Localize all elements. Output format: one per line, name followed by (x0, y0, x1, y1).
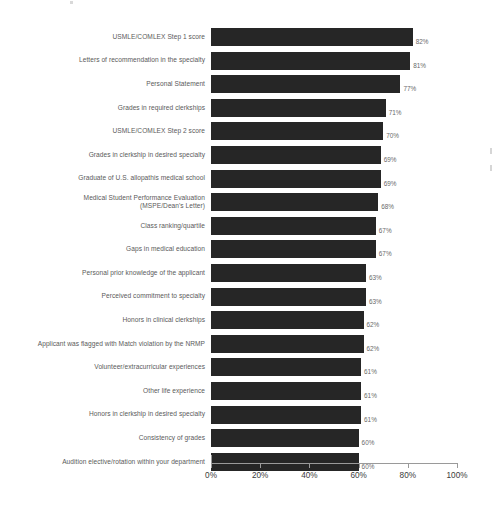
bar-value-label: 67% (379, 227, 392, 235)
bar-row: Consistency of grades60% (0, 429, 494, 453)
x-axis-tick-label: 100% (447, 471, 468, 481)
category-label: Class ranking/quartile (0, 222, 205, 230)
x-axis-tick-label: 80% (400, 471, 416, 481)
bar-row: Volunteer/extracurricular experiences61% (0, 358, 494, 382)
bar-value-label: 68% (381, 203, 394, 211)
category-label: Honors in clerkship in desired specialty (0, 410, 205, 418)
bar-row: Letters of recommendation in the special… (0, 52, 494, 76)
bar-value-label: 62% (367, 321, 380, 329)
bar (211, 193, 378, 211)
bar (211, 264, 366, 282)
bar (211, 28, 413, 46)
bar-value-label: 82% (416, 38, 429, 46)
bar-row: Gaps in medical education67% (0, 240, 494, 264)
bar (211, 288, 366, 306)
x-axis-tick (260, 463, 261, 468)
bar-value-label: 69% (384, 180, 397, 188)
bar (211, 429, 359, 447)
bar-row: USMLE/COMLEX Step 2 score70% (0, 122, 494, 146)
bar (211, 146, 381, 164)
bar-row: Grades in required clerkships71% (0, 99, 494, 123)
bar-value-label: 61% (364, 368, 377, 376)
bar-value-label: 60% (362, 439, 375, 447)
bar (211, 358, 361, 376)
bar-row: Graduate of U.S. allopathis medical scho… (0, 170, 494, 194)
x-axis-tick (408, 463, 409, 468)
bar-value-label: 63% (369, 274, 382, 282)
bar-row: Audition elective/rotation within your d… (0, 453, 494, 477)
category-label: Perceived commitment to specialty (0, 292, 205, 300)
x-axis-tick-label: 60% (350, 471, 366, 481)
bar-row: Honors in clinical clerkships62% (0, 311, 494, 335)
category-label: Letters of recommendation in the special… (0, 56, 205, 64)
bar (211, 406, 361, 424)
bar-row: Medical Student Performance Evaluation (… (0, 193, 494, 217)
category-label: USMLE/COMLEX Step 2 score (0, 127, 205, 135)
category-label: Audition elective/rotation within your d… (0, 458, 205, 466)
bar (211, 382, 361, 400)
bar-value-label: 71% (389, 109, 402, 117)
category-label: Honors in clinical clerkships (0, 316, 205, 324)
category-label: Consistency of grades (0, 434, 205, 442)
bar-row: Perceived commitment to specialty63% (0, 288, 494, 312)
bar (211, 453, 359, 471)
x-axis-tick (211, 463, 212, 468)
bar (211, 52, 410, 70)
x-axis-tick (359, 463, 360, 468)
bar (211, 311, 364, 329)
bar-value-label: 81% (413, 62, 426, 70)
bar (211, 122, 383, 140)
x-axis-tick-label: 40% (301, 471, 317, 481)
x-axis-tick-label: 20% (252, 471, 268, 481)
bar-value-label: 63% (369, 298, 382, 306)
category-label: Personal Statement (0, 80, 205, 88)
bar (211, 335, 364, 353)
bar-value-label: 67% (379, 250, 392, 258)
category-label: Gaps in medical education (0, 245, 205, 253)
bar (211, 99, 386, 117)
bar (211, 240, 376, 258)
bar-value-label: 69% (384, 156, 397, 164)
bar-value-label: 61% (364, 392, 377, 400)
bar-row: Personal prior knowledge of the applican… (0, 264, 494, 288)
x-axis-tick-label: 0% (205, 471, 217, 481)
bar-row: Other life experience61% (0, 382, 494, 406)
category-label: Graduate of U.S. allopathis medical scho… (0, 174, 205, 182)
x-axis-tick (309, 463, 310, 468)
category-label: Other life experience (0, 387, 205, 395)
bar (211, 75, 400, 93)
x-axis-line (211, 463, 457, 464)
category-label: Grades in required clerkships (0, 104, 205, 112)
category-label: Personal prior knowledge of the applican… (0, 269, 205, 277)
x-axis-tick (457, 463, 458, 468)
bar-value-label: 61% (364, 416, 377, 424)
bar-row: Applicant was flagged with Match violati… (0, 335, 494, 359)
bar-row: USMLE/COMLEX Step 1 score82% (0, 28, 494, 52)
bar-value-label: 70% (386, 132, 399, 140)
bar-row: Honors in clerkship in desired specialty… (0, 406, 494, 430)
category-label: Medical Student Performance Evaluation (… (0, 194, 205, 211)
category-label: Volunteer/extracurricular experiences (0, 363, 205, 371)
category-label: Applicant was flagged with Match violati… (0, 340, 205, 348)
bar-rows: USMLE/COMLEX Step 1 score82%Letters of r… (0, 0, 494, 520)
category-label: USMLE/COMLEX Step 1 score (0, 33, 205, 41)
bar-chart: USMLE/COMLEX Step 1 score82%Letters of r… (0, 0, 494, 520)
category-label: Grades in clerkship in desired specialty (0, 151, 205, 159)
bar-value-label: 77% (403, 85, 416, 93)
bar-row: Class ranking/quartile67% (0, 217, 494, 241)
bar (211, 170, 381, 188)
bar-row: Personal Statement77% (0, 75, 494, 99)
bar (211, 217, 376, 235)
bar-row: Grades in clerkship in desired specialty… (0, 146, 494, 170)
bar-value-label: 62% (367, 345, 380, 353)
